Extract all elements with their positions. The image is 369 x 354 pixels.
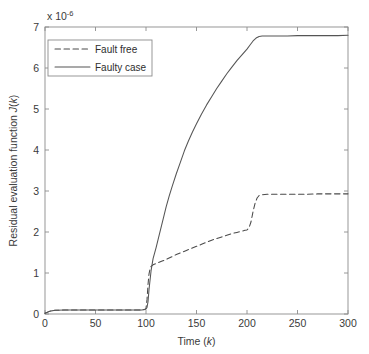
y-tick-label-4: 4	[33, 144, 39, 156]
chart-plot-area: 05010015020025030001234567x 10-6Time (k)…	[0, 0, 369, 354]
y-tick-label-7: 7	[33, 21, 39, 33]
y-tick-label-2: 2	[33, 226, 39, 238]
legend-label-faulty-case: Faulty case	[95, 62, 147, 73]
x-tick-label-300: 300	[339, 317, 357, 329]
series-line-fault-free	[45, 194, 348, 313]
y-tick-label-5: 5	[33, 103, 39, 115]
y-axis-exponent-label: x 10-6	[47, 9, 74, 22]
y-tick-label-6: 6	[33, 62, 39, 74]
x-tick-label-0: 0	[42, 317, 48, 329]
x-tick-label-100: 100	[137, 317, 155, 329]
legend-label-fault-free: Fault free	[95, 44, 138, 55]
y-axis-label: Residual evaluation function J(k)	[7, 95, 19, 247]
x-tick-label-150: 150	[188, 317, 206, 329]
y-tick-label-0: 0	[33, 308, 39, 320]
x-tick-label-200: 200	[238, 317, 256, 329]
x-tick-label-50: 50	[90, 317, 102, 329]
series-line-faulty-case	[45, 35, 348, 313]
y-tick-label-1: 1	[33, 267, 39, 279]
x-tick-label-250: 250	[289, 317, 307, 329]
figure-canvas: 05010015020025030001234567x 10-6Time (k)…	[0, 0, 369, 354]
x-axis-label: Time (k)	[177, 335, 215, 347]
y-tick-label-3: 3	[33, 185, 39, 197]
